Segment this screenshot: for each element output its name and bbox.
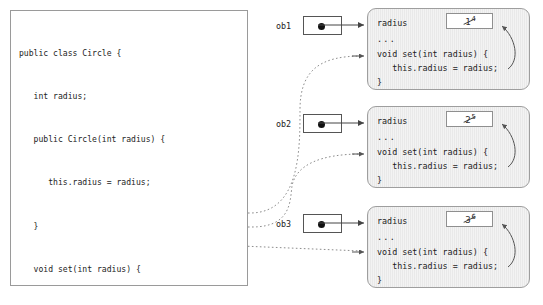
code-line: void set(int radius) { bbox=[19, 262, 229, 276]
reference-label-ob1: ob1 bbox=[276, 21, 291, 31]
object-method-body-3: this.radius = radius; bbox=[377, 261, 498, 271]
object-method-body-1: this.radius = radius; bbox=[377, 63, 498, 73]
code-panel: public class Circle { int radius; public… bbox=[10, 10, 248, 286]
object-box-2: radius 2 5 ... void set(int radius) { th… bbox=[367, 106, 530, 188]
object-ellipsis-3: ... bbox=[377, 232, 396, 242]
object-box-3: radius 3 6 ... void set(int radius) { th… bbox=[367, 206, 530, 288]
object-method-body-2: this.radius = radius; bbox=[377, 161, 498, 171]
object-box-1: radius 1 4 ... void set(int radius) { th… bbox=[367, 8, 530, 90]
code-line: } bbox=[19, 219, 229, 233]
reference-label-ob2: ob2 bbox=[276, 119, 291, 129]
object-method-signature-1: void set(int radius) { bbox=[377, 49, 488, 59]
object-method-signature-3: void set(int radius) { bbox=[377, 247, 488, 257]
reference-label-ob3: ob3 bbox=[276, 219, 291, 229]
diagram-canvas: public class Circle { int radius; public… bbox=[0, 0, 543, 305]
object-method-signature-2: void set(int radius) { bbox=[377, 147, 488, 157]
object-ellipsis-2: ... bbox=[377, 132, 396, 142]
object-method-close-3: } bbox=[377, 275, 382, 285]
object-old-value-1: 1 bbox=[465, 17, 470, 27]
reference-cell-ob2 bbox=[303, 114, 342, 133]
code-line: public Circle(int radius) { bbox=[19, 132, 229, 146]
object-old-value-2: 2 bbox=[465, 115, 470, 125]
object-ellipsis-1: ... bbox=[377, 34, 396, 44]
object-value-box-1: 1 4 bbox=[446, 13, 493, 29]
pointer-dot-icon bbox=[318, 121, 325, 128]
reference-cell-ob3 bbox=[303, 214, 342, 233]
pointer-dot-icon bbox=[318, 23, 325, 30]
object-field-name-3: radius bbox=[377, 216, 407, 226]
object-old-value-3: 3 bbox=[465, 215, 470, 225]
object-field-name-2: radius bbox=[377, 116, 407, 126]
code-line: public class Circle { bbox=[19, 46, 229, 60]
pointer-dot-icon bbox=[318, 221, 325, 228]
code-line: this.radius = radius; bbox=[19, 175, 229, 189]
object-method-close-1: } bbox=[377, 77, 382, 87]
object-value-box-3: 3 6 bbox=[446, 211, 493, 227]
object-method-close-2: } bbox=[377, 175, 382, 185]
reference-cell-ob1 bbox=[303, 16, 342, 35]
code-line: int radius; bbox=[19, 89, 229, 103]
object-field-name-1: radius bbox=[377, 18, 407, 28]
object-value-box-2: 2 5 bbox=[446, 111, 493, 127]
code-listing: public class Circle { int radius; public… bbox=[19, 17, 229, 305]
